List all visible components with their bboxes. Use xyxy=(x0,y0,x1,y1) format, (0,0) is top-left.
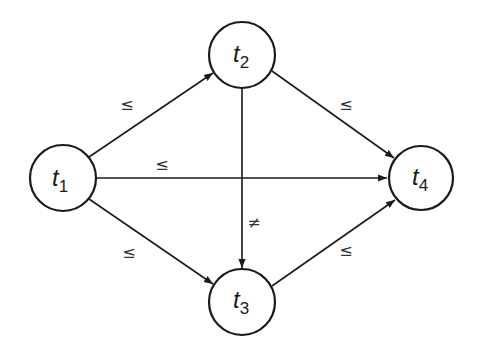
node-t1-sub: 1 xyxy=(59,177,68,196)
edge-t1-t2 xyxy=(89,73,213,157)
edge-label-t2-t4: ≤ xyxy=(339,95,352,114)
edge-label-t2-t3: ≠ xyxy=(247,213,260,232)
constraint-graph: ≤ ≤ ≤ ≤ ≠ ≤ t1 t2 t3 t4 xyxy=(0,0,477,360)
node-t1: t1 xyxy=(30,145,96,211)
node-t4: t4 xyxy=(389,146,453,210)
edge-t3-t4 xyxy=(272,200,395,286)
edge-label-t1-t2: ≤ xyxy=(120,95,133,114)
edge-t1-t3 xyxy=(89,199,213,284)
node-t2-sub: 2 xyxy=(240,53,249,72)
node-t2: t2 xyxy=(209,22,275,88)
edge-label-t3-t4: ≤ xyxy=(339,241,352,260)
node-t3: t3 xyxy=(209,269,275,335)
node-t3-sub: 3 xyxy=(240,299,249,318)
edge-t2-t4 xyxy=(272,71,394,158)
edge-label-t1-t4: ≤ xyxy=(155,155,168,174)
edge-label-t1-t3: ≤ xyxy=(122,243,135,262)
node-t4-sub: 4 xyxy=(419,176,428,195)
